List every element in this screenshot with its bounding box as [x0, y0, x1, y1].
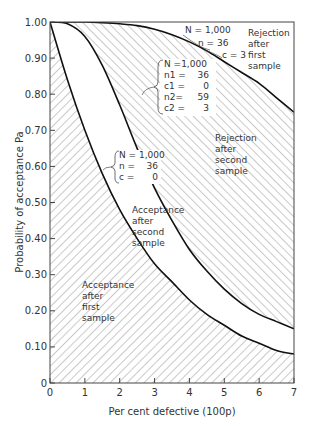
svg-text:3: 3	[203, 103, 209, 113]
svg-text:59: 59	[198, 92, 210, 102]
svg-text:n1 =: n1 =	[164, 70, 186, 80]
svg-text:first: first	[248, 50, 266, 60]
svg-text:c =: c =	[119, 172, 134, 182]
svg-text:0: 0	[203, 81, 209, 91]
svg-text:Acceptance: Acceptance	[82, 280, 135, 290]
y-tick-label: 0.10	[25, 341, 47, 352]
y-axis-label: Probability of acceptance Pa	[14, 131, 25, 272]
svg-text:after: after	[248, 39, 270, 49]
svg-text:Rejection: Rejection	[215, 133, 257, 143]
y-tick-label: 0.50	[25, 197, 47, 208]
svg-text:c = 3: c = 3	[222, 50, 246, 60]
annotation-reject-first: Rejectionafterfirstsample	[248, 28, 290, 71]
label-single-c0: N = 1,000n =36c =0	[103, 150, 165, 184]
y-tick-label: 0.80	[25, 89, 47, 100]
svg-text:sample: sample	[215, 166, 248, 176]
svg-text:sample: sample	[248, 61, 281, 71]
svg-text:sample: sample	[132, 238, 165, 248]
y-tick-label: 0.70	[25, 125, 47, 136]
svg-text:n =: n =	[119, 161, 135, 171]
svg-text:second: second	[132, 227, 164, 237]
y-tick-label: 0.20	[25, 305, 47, 316]
y-tick-label: 1.00	[25, 17, 47, 28]
svg-text:first: first	[82, 302, 100, 312]
y-tick-label: 0.90	[25, 53, 47, 64]
x-tick-label: 2	[117, 387, 123, 398]
svg-text:36: 36	[147, 161, 159, 171]
svg-text:n = 36: n = 36	[198, 38, 229, 48]
x-tick-label: 6	[256, 387, 262, 398]
svg-text:N = 1,000: N = 1,000	[185, 25, 231, 35]
svg-text:c1 =: c1 =	[164, 81, 185, 91]
svg-text:c2 =: c2 =	[164, 103, 185, 113]
svg-text:36: 36	[198, 70, 210, 80]
x-tick-label: 7	[291, 387, 297, 398]
y-tick-label: 0.40	[25, 233, 47, 244]
svg-text:second: second	[215, 155, 247, 165]
y-tick-label: 0.30	[25, 269, 47, 280]
svg-text:after: after	[132, 216, 154, 226]
svg-text:Rejection: Rejection	[248, 28, 290, 38]
x-tick-label: 5	[221, 387, 227, 398]
svg-text:n2=: n2=	[164, 92, 183, 102]
svg-text:after: after	[215, 144, 237, 154]
y-tick-label: 0.60	[25, 161, 47, 172]
x-tick-label: 1	[82, 387, 88, 398]
oc-curve-chart: 00.100.200.300.400.500.600.700.800.901.0…	[0, 0, 309, 428]
svg-text:Acceptance: Acceptance	[132, 205, 185, 215]
svg-text:sample: sample	[82, 313, 115, 323]
svg-text:N = 1,000: N = 1,000	[119, 150, 165, 160]
svg-text:after: after	[82, 291, 104, 301]
x-tick-label: 3	[151, 387, 157, 398]
svg-text:N =1,000: N =1,000	[164, 59, 207, 69]
svg-text:0: 0	[152, 172, 158, 182]
x-tick-label: 4	[186, 387, 192, 398]
x-tick-label: 0	[47, 387, 53, 398]
x-axis-label: Per cent defective (100p)	[108, 406, 235, 417]
